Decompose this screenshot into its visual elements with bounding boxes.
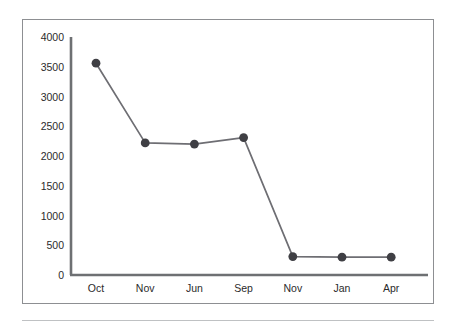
x-axis-tick-label: Apr — [383, 282, 400, 294]
y-axis-tick-label: 4000 — [41, 31, 65, 43]
x-axis-tick-label: Nov — [283, 282, 302, 294]
x-axis-tick-label: Jan — [334, 282, 351, 294]
y-axis-tick-label: 2000 — [41, 150, 65, 162]
y-axis-tick-label: 3000 — [41, 91, 65, 103]
data-point-marker — [92, 59, 101, 68]
data-point-marker — [387, 253, 396, 262]
x-axis-tick-label: Sep — [234, 282, 253, 294]
chart-page: 40003500300025002000150010005000 OctNovJ… — [0, 0, 457, 327]
data-point-marker — [288, 252, 297, 261]
y-axis-tick-label: 1000 — [41, 210, 65, 222]
y-axis-tick-label: 2500 — [41, 120, 65, 132]
data-point-marker — [239, 133, 248, 142]
x-axis-tick-label: Oct — [88, 282, 104, 294]
data-point-marker — [190, 140, 199, 149]
series-data-markers — [92, 59, 396, 262]
chart-frame: 40003500300025002000150010005000 OctNovJ… — [22, 19, 434, 304]
x-axis-tick-label: Jun — [186, 282, 203, 294]
data-point-marker — [141, 139, 150, 148]
figure-divider-rule — [22, 320, 434, 321]
y-axis-tick-label: 0 — [58, 269, 64, 281]
data-point-marker — [338, 253, 347, 262]
series-line-path — [96, 63, 391, 257]
y-axis-tick-label: 500 — [46, 239, 64, 251]
y-axis-tick-label: 3500 — [41, 61, 65, 73]
x-axis-tick-label: Nov — [136, 282, 155, 294]
x-axis-tick-labels: OctNovJunSepNovJanApr — [88, 282, 400, 294]
y-axis-tick-label: 1500 — [41, 180, 65, 192]
y-axis-tick-labels: 40003500300025002000150010005000 — [41, 31, 65, 281]
line-chart-plot: 40003500300025002000150010005000 OctNovJ… — [23, 20, 435, 305]
